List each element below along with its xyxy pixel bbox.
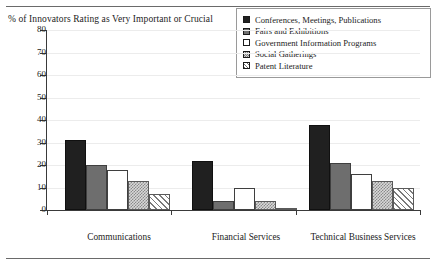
y-tick-label: 0 [10, 204, 46, 214]
bar[interactable] [65, 140, 86, 210]
bar[interactable] [330, 163, 351, 210]
legend-label: Conferences, Meetings, Publications [255, 15, 381, 25]
x-tick-mark [47, 210, 48, 215]
bar-groups [47, 30, 420, 210]
bar[interactable] [276, 208, 297, 210]
chart-title: % of Innovators Rating as Very Important… [8, 14, 213, 24]
y-tick-label: 40 [10, 114, 46, 124]
x-tick-mark [420, 210, 421, 215]
bar[interactable] [86, 165, 107, 210]
bar[interactable] [234, 188, 255, 211]
x-axis-line [46, 210, 420, 211]
bar[interactable] [192, 161, 213, 211]
bar[interactable] [149, 194, 170, 210]
y-tick-label: 20 [10, 159, 46, 169]
bar-group [309, 30, 414, 210]
legend-item-conferences-meetings-publications[interactable]: Conferences, Meetings, Publications [243, 15, 425, 25]
x-tick-mark [296, 210, 297, 215]
y-tick-label: 10 [10, 182, 46, 192]
y-tick-label: 50 [10, 92, 46, 102]
x-category-label: Technical Business Services [289, 232, 436, 242]
bar[interactable] [351, 174, 372, 210]
bar[interactable] [213, 201, 234, 210]
bar[interactable] [372, 181, 393, 210]
x-category-label: Communications [45, 232, 193, 242]
top-divider-rule [6, 6, 430, 7]
bar[interactable] [107, 170, 128, 211]
legend-swatch-solid-black-icon [243, 16, 250, 23]
bar[interactable] [128, 181, 149, 210]
y-tick-label: 60 [10, 69, 46, 79]
y-tick-label: 80 [10, 24, 46, 34]
bottom-divider-rule [6, 258, 430, 259]
bar[interactable] [255, 201, 276, 210]
bar[interactable] [393, 188, 414, 211]
y-tick-label: 70 [10, 47, 46, 57]
bar[interactable] [309, 125, 330, 211]
bar-group [65, 30, 170, 210]
bar-group [192, 30, 297, 210]
y-tick-label: 30 [10, 137, 46, 147]
y-axis: 01020304050607080 [0, 26, 46, 216]
x-tick-mark [171, 210, 172, 215]
plot-area: 01020304050607080 CommunicationsFinancia… [0, 26, 436, 234]
